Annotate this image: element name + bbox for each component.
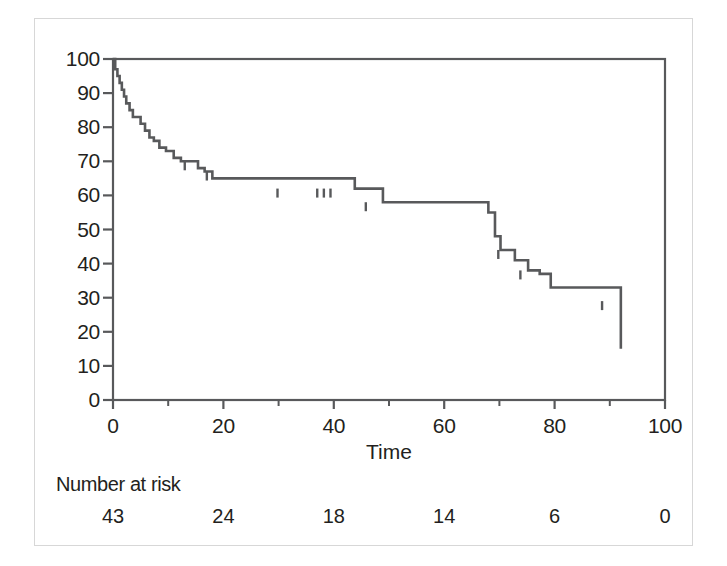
number-at-risk-value: 14 xyxy=(433,505,455,528)
number-at-risk-label: Number at risk xyxy=(56,473,180,496)
number-at-risk-table: Number at risk 4324181460 xyxy=(0,0,727,566)
number-at-risk-value: 43 xyxy=(102,505,124,528)
number-at-risk-value: 6 xyxy=(549,505,560,528)
number-at-risk-value: 18 xyxy=(323,505,345,528)
number-at-risk-value: 24 xyxy=(212,505,234,528)
number-at-risk-value: 0 xyxy=(659,505,670,528)
